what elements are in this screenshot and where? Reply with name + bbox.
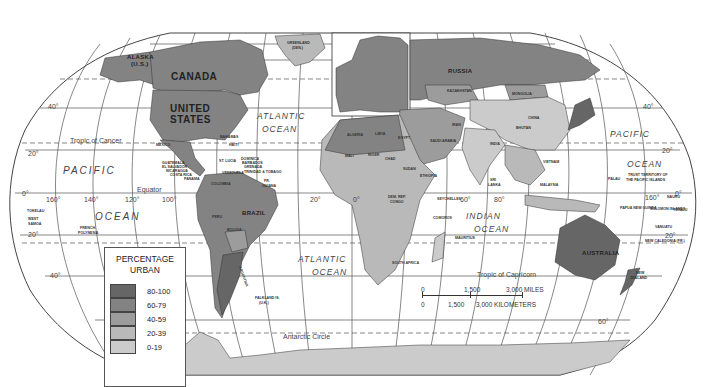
lat-40n-west: 40°	[48, 103, 59, 110]
label-south-africa: SOUTH AFRICA	[392, 262, 419, 266]
lon-20w: 20°	[310, 196, 321, 203]
label-venezuela: VENEZUELA	[222, 172, 244, 176]
label-india: INDIA	[490, 143, 500, 147]
label-ethiopia: ETHIOPIA	[420, 175, 437, 179]
lon-100w: 100°	[162, 196, 176, 203]
lon-160e: 160°	[645, 194, 659, 201]
label-panama: PANAMA	[184, 178, 200, 182]
legend-swatch	[110, 298, 136, 312]
lat-40s-west: 40°	[50, 272, 61, 279]
lat-20n-east: 20°	[662, 147, 673, 154]
atlantic-ocean-north-label-1: ATLANTIC	[257, 112, 305, 121]
label-nauru: NAURU	[667, 196, 680, 200]
label-sri-lanka-2: LANKA	[488, 184, 501, 188]
label-trinidad: TRINIDAD & TOBAGO	[244, 171, 281, 175]
label-bolivia: BOLIVIA	[227, 229, 242, 233]
label-dem-rep-congo-2: CONGO	[390, 201, 404, 205]
land-canada	[150, 40, 268, 95]
legend-swatch	[110, 312, 136, 326]
equator-label: Equator	[137, 186, 162, 193]
label-vanuatu: VANUATU	[655, 226, 672, 230]
label-new-caledonia: NEW CALEDONIA (FR.)	[645, 240, 685, 244]
legend-row-40-59: 40-59	[110, 312, 182, 327]
label-trust-territory-2: THE PACIFIC ISLANDS	[626, 179, 665, 183]
lon-140w: 140°	[84, 196, 98, 203]
pacific-ocean-east-label-2: OCEAN	[627, 160, 662, 169]
lat-40n-east: 40°	[643, 103, 654, 110]
lon-160w: 160°	[46, 196, 60, 203]
lon-0: 0°	[353, 196, 360, 203]
label-egypt: EGYPT	[398, 137, 410, 141]
label-sudan: SUDAN	[403, 168, 416, 172]
legend-range-label: 0-19	[147, 343, 162, 352]
label-bhutan: BHUTAN	[516, 127, 531, 131]
label-new-zealand-2: ZEALAND	[630, 277, 647, 281]
legend-range-label: 80-100	[147, 287, 170, 296]
label-chad: CHAD	[385, 158, 395, 162]
scale-km-0: 0	[421, 301, 425, 308]
pacific-ocean-west-label-2: OCEAN	[95, 212, 141, 222]
label-australia: AUSTRALIA	[582, 250, 619, 256]
label-mali: MALI	[345, 155, 354, 159]
label-bahamas: BAHAMAS	[220, 136, 238, 140]
label-china: CHINA	[528, 117, 539, 121]
legend-range-label: 60-79	[147, 301, 166, 310]
legend-range-label: 20-39	[147, 329, 166, 338]
label-st-lucia: ST. LUCIA	[219, 160, 236, 164]
lat-60s-east: 60°	[598, 318, 609, 325]
legend-row-20-39: 20-39	[110, 326, 182, 341]
lon-80e: 80°	[494, 196, 505, 203]
label-brazil: BRAZIL	[242, 210, 266, 216]
lat-0-west: 0°	[22, 190, 29, 197]
pacific-ocean-east-label-1: PACIFIC	[610, 130, 650, 139]
label-palau: PALAU	[608, 178, 620, 182]
indian-ocean-label-2: OCEAN	[474, 225, 509, 234]
legend-swatch	[110, 326, 136, 340]
scale-km-1500: 1,500	[448, 301, 464, 308]
atlantic-ocean-north-label-2: OCEAN	[262, 125, 297, 134]
label-seychelles: SEYCHELLES	[437, 198, 461, 202]
scale-tick	[470, 292, 471, 298]
lon-120w: 120°	[125, 196, 139, 203]
lat-20s-west: 20°	[28, 231, 39, 238]
lon-60e: 60°	[460, 196, 471, 203]
label-united-states-2: STATES	[170, 115, 211, 125]
legend-row-60-79: 60-79	[110, 298, 182, 313]
label-malaysia: MALAYSIA	[540, 184, 558, 188]
atlantic-ocean-south-label-2: OCEAN	[312, 268, 347, 277]
label-west-samoa-2: SAMOA	[28, 223, 41, 227]
label-mongolia: MONGOLIA	[512, 93, 532, 97]
label-russia: RUSSIA	[448, 68, 472, 74]
label-iran: IRAN	[452, 124, 461, 128]
label-vietnam: VIETNAM	[543, 161, 559, 165]
legend-box: PERCENTAGE URBAN 80-100 60-79 40-59 20-3…	[104, 247, 186, 387]
lat-20n-west: 20°	[28, 150, 39, 157]
label-falkland-2: (U.K.)	[259, 302, 269, 306]
legend-swatch	[110, 340, 136, 354]
scale-miles-3000: 3,000 MILES	[506, 286, 544, 293]
pacific-ocean-west-label-1: PACIFIC	[63, 166, 116, 176]
label-canada: CANADA	[171, 72, 217, 82]
lat-20s-east: 20°	[665, 232, 676, 239]
legend-range-label: 40-59	[147, 315, 166, 324]
tropic-of-cancer-label: Tropic of Cancer	[70, 137, 121, 144]
label-tuvalu: TUVALU	[673, 209, 687, 213]
scale-miles-1500: 1,500	[464, 286, 480, 293]
scale-bar: 0 1,500 3,000 MILES 0 1,500 3,000 KILOME…	[418, 286, 548, 318]
label-guiana-2: GUIANA	[262, 185, 276, 189]
label-peru: PERU	[212, 216, 222, 220]
label-colombia: COLOMBIA	[211, 183, 231, 187]
legend-row-80-100: 80-100	[110, 284, 182, 299]
label-comoros: COMOROS	[433, 217, 452, 221]
scale-tick	[522, 292, 523, 298]
indian-ocean-label-1: INDIAN	[466, 212, 501, 221]
label-algeria: ALGERIA	[347, 134, 363, 138]
label-alaska-2: (U.S.)	[131, 61, 148, 67]
scale-km-3000: 3,000 KILOMETERS	[476, 301, 536, 308]
legend-title-line1: PERCENTAGE	[105, 254, 185, 264]
label-libya: LIBYA	[375, 133, 385, 137]
atlantic-ocean-south-label-1: ATLANTIC	[298, 255, 346, 264]
label-mexico: MEXICO	[156, 144, 170, 148]
label-alaska-1: ALASKA	[127, 54, 154, 60]
label-haiti: HAITI	[229, 144, 238, 148]
